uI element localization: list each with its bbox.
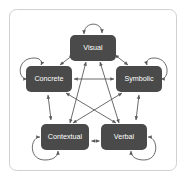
edge-visual-contextual: [70, 62, 86, 123]
node-symbolic[interactable]: Symbolic: [116, 66, 162, 92]
edge-symbolic-visual: [115, 55, 128, 65]
node-concrete-label: Concrete: [34, 74, 63, 83]
node-symbolic-label: Symbolic: [124, 74, 154, 83]
edge-symbolic-verbal: [136, 95, 139, 120]
edge-concrete-contextual: [48, 95, 51, 120]
node-contextual[interactable]: Contextual: [41, 124, 89, 150]
node-visual[interactable]: Visual: [70, 35, 116, 61]
self-loop-visual: [84, 24, 102, 34]
node-visual-label: Visual: [83, 43, 103, 52]
diagram-svg: Visual Concrete Symbolic Contextual Verb…: [0, 0, 186, 180]
node-contextual-label: Contextual: [48, 132, 83, 141]
node-verbal-label: Verbal: [114, 132, 135, 141]
node-concrete[interactable]: Concrete: [26, 66, 72, 92]
diagram-canvas: Visual Concrete Symbolic Contextual Verb…: [0, 0, 186, 180]
node-verbal[interactable]: Verbal: [101, 124, 147, 150]
